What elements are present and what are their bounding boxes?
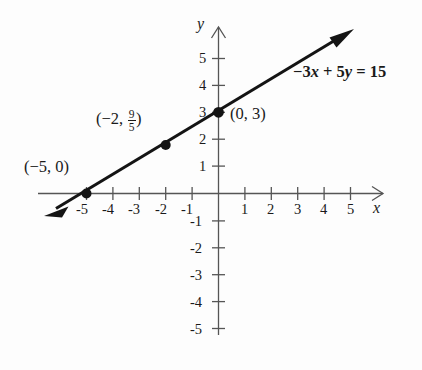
graph-figure: 5 4 3 2 1 -1 -2 -3 -4 -5 -5 -4 -3 -2 -1 … xyxy=(0,0,422,370)
x-tick-4: 4 xyxy=(320,202,327,217)
coordinate-plane-svg xyxy=(0,0,422,370)
label-x-intercept: (−5, 0) xyxy=(24,159,69,176)
label-y-intercept: (0, 3) xyxy=(230,106,266,123)
fraction-denominator: 5 xyxy=(128,120,136,133)
equation-annotation: −3x + 5y = 15 xyxy=(293,64,386,81)
equation-plus-term: + 5 xyxy=(319,62,345,81)
equation-variable-x: x xyxy=(311,62,319,81)
y-tick-neg4: -4 xyxy=(190,295,202,310)
y-tick-neg3: -3 xyxy=(190,268,202,283)
equation-coefficient: −3 xyxy=(293,62,311,81)
x-tick-neg2: -2 xyxy=(155,202,167,217)
y-tick-neg2: -2 xyxy=(190,241,202,256)
y-tick-4: 4 xyxy=(199,78,206,93)
fraction-numerator: 9 xyxy=(128,108,136,120)
y-tick-1: 1 xyxy=(199,159,206,174)
point-x-intercept xyxy=(82,189,92,199)
x-tick-neg1: -1 xyxy=(181,202,193,217)
x-tick-neg5: -5 xyxy=(76,202,88,217)
y-tick-2: 2 xyxy=(199,132,206,147)
x-tick-2: 2 xyxy=(267,202,274,217)
point-y-intercept xyxy=(213,107,224,118)
fraction-nine-fifths: 95 xyxy=(128,108,136,133)
y-tick-5: 5 xyxy=(199,51,206,66)
point-midpoint xyxy=(161,140,171,150)
y-tick-neg5: -5 xyxy=(190,322,202,337)
label-midpoint-close: ) xyxy=(136,109,142,128)
label-midpoint: (−2, 95) xyxy=(96,108,142,133)
x-tick-3: 3 xyxy=(294,202,301,217)
y-axis xyxy=(212,27,226,335)
y-axis-label: y xyxy=(197,16,204,32)
y-tick-3: 3 xyxy=(199,105,206,120)
x-tick-5: 5 xyxy=(347,202,354,217)
equation-rhs: = 15 xyxy=(352,62,386,81)
x-tick-neg4: -4 xyxy=(102,202,114,217)
x-axis-label: x xyxy=(373,200,380,216)
x-tick-1: 1 xyxy=(241,202,248,217)
label-midpoint-open: (−2, xyxy=(96,109,127,128)
x-tick-neg3: -3 xyxy=(128,202,140,217)
